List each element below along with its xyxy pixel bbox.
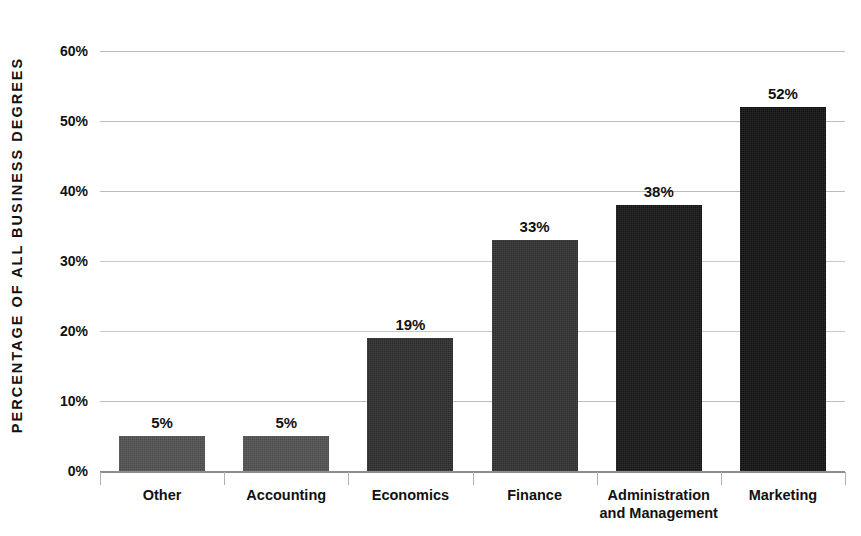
y-axis-tick-label: 30% (36, 253, 88, 269)
bar-value-label: 33% (520, 218, 550, 235)
y-axis-title-text: PERCENTAGE OF ALL BUSINESS DEGREES (9, 57, 25, 433)
x-axis-label: Economics (348, 486, 472, 504)
bar-value-label: 5% (275, 414, 297, 431)
bar-fill (492, 240, 578, 471)
bar-value-label: 5% (151, 414, 173, 431)
bar-value-label: 38% (644, 183, 674, 200)
bar-slot: 5% (100, 51, 224, 471)
x-axis-label: Other (100, 486, 224, 504)
bar[interactable]: 38% (616, 205, 702, 471)
plot-area: 5%5%19%33%38%52% (100, 51, 845, 471)
bar-slot: 52% (721, 51, 845, 471)
bar[interactable]: 33% (492, 240, 578, 471)
bar-chart: PERCENTAGE OF ALL BUSINESS DEGREES 60%50… (0, 0, 861, 536)
bar[interactable]: 5% (119, 436, 205, 471)
bar-fill (367, 338, 453, 471)
x-axis-label: Marketing (721, 486, 845, 504)
bar-value-label: 52% (768, 85, 798, 102)
bar-value-label: 19% (395, 316, 425, 333)
x-axis-label-line: Finance (473, 486, 597, 504)
y-axis-tick-label: 40% (36, 183, 88, 199)
bar-fill (616, 205, 702, 471)
x-axis-label: Finance (473, 486, 597, 504)
y-axis-tick-label: 60% (36, 43, 88, 59)
x-axis-label-line: Economics (348, 486, 472, 504)
bar[interactable]: 52% (740, 107, 826, 471)
x-axis-tick (348, 472, 349, 485)
y-axis-tick-label: 50% (36, 113, 88, 129)
bar[interactable]: 5% (243, 436, 329, 471)
bar-slot: 5% (224, 51, 348, 471)
bar-fill (119, 436, 205, 471)
y-axis-tick-labels: 60%50%40%30%20%10%0% (36, 0, 94, 536)
bar[interactable]: 19% (367, 338, 453, 471)
x-axis-tick (721, 472, 722, 485)
y-axis-tick-label: 0% (36, 463, 88, 479)
x-axis-label: Administrationand Management (597, 486, 721, 522)
y-axis-tick-label: 20% (36, 323, 88, 339)
y-axis-tick-label: 10% (36, 393, 88, 409)
x-axis-label-line: Other (100, 486, 224, 504)
x-axis-label-line: Accounting (224, 486, 348, 504)
x-axis-label-line: and Management (597, 504, 721, 522)
x-axis-label-line: Administration (597, 486, 721, 504)
bar-slot: 33% (473, 51, 597, 471)
x-axis-label-line: Marketing (721, 486, 845, 504)
bar-slot: 19% (348, 51, 472, 471)
bar-fill (243, 436, 329, 471)
x-axis-label: Accounting (224, 486, 348, 504)
bar-slot: 38% (597, 51, 721, 471)
x-axis-tick (473, 472, 474, 485)
x-axis-tick (224, 472, 225, 485)
x-axis-tick (100, 472, 101, 485)
bar-fill (740, 107, 826, 471)
x-axis-category-ticks (100, 472, 845, 485)
x-axis-tick (597, 472, 598, 485)
y-axis-title: PERCENTAGE OF ALL BUSINESS DEGREES (0, 0, 34, 490)
x-axis-tick (845, 472, 846, 485)
x-axis-labels: OtherAccountingEconomicsFinanceAdministr… (100, 486, 845, 536)
